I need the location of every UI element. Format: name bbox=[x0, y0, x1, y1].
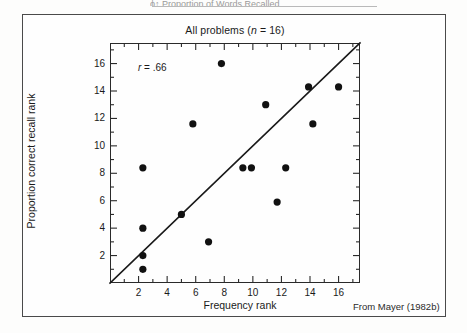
data-point bbox=[309, 120, 316, 127]
x-tick-label: 10 bbox=[243, 288, 263, 298]
data-point bbox=[189, 120, 196, 127]
data-point bbox=[239, 164, 246, 171]
y-tick-label: 6 bbox=[83, 196, 105, 206]
data-point bbox=[139, 266, 146, 273]
x-tick-label: 2 bbox=[129, 288, 149, 298]
chart-title-prefix: All problems ( bbox=[185, 24, 251, 36]
y-tick-label: 12 bbox=[83, 113, 105, 123]
data-point bbox=[248, 164, 255, 171]
y-axis-title: Proportion correct recall rank bbox=[25, 81, 37, 241]
y-tick-label: 10 bbox=[83, 141, 105, 151]
scanned-page: ϕ↑ Proportion of Words Recalled All prob… bbox=[0, 0, 467, 333]
page-horizontal-rule bbox=[152, 6, 377, 7]
data-point bbox=[178, 211, 185, 218]
scatter-plot-canvas bbox=[110, 43, 360, 283]
source-credit: From Mayer (1982b) bbox=[353, 301, 440, 312]
y-tick-label: 8 bbox=[83, 168, 105, 178]
x-tick-label: 12 bbox=[271, 288, 291, 298]
x-tick-label: 8 bbox=[214, 288, 234, 298]
data-point bbox=[282, 164, 289, 171]
data-point bbox=[305, 83, 312, 90]
y-tick-label: 16 bbox=[83, 59, 105, 69]
chart-title-suffix: = 16) bbox=[257, 24, 285, 36]
data-point bbox=[139, 164, 146, 171]
y-tick-label: 4 bbox=[83, 223, 105, 233]
y-tick-label: 14 bbox=[83, 86, 105, 96]
data-point bbox=[205, 238, 212, 245]
x-tick-label: 6 bbox=[186, 288, 206, 298]
x-tick-label: 16 bbox=[329, 288, 349, 298]
plot-area: 246810121416 246810121416 bbox=[110, 43, 360, 283]
chart-title: All problems (n = 16) bbox=[150, 24, 320, 36]
x-tick-label: 4 bbox=[157, 288, 177, 298]
regression-line bbox=[110, 43, 360, 283]
data-point bbox=[139, 225, 146, 232]
y-tick-label: 2 bbox=[83, 251, 105, 261]
data-point bbox=[139, 252, 146, 259]
data-points-layer bbox=[139, 60, 342, 273]
data-point bbox=[262, 101, 269, 108]
data-point bbox=[274, 198, 281, 205]
data-point bbox=[335, 83, 342, 90]
data-point bbox=[218, 60, 225, 67]
x-axis-title: Frequency rank bbox=[175, 299, 305, 311]
x-tick-label: 14 bbox=[300, 288, 320, 298]
